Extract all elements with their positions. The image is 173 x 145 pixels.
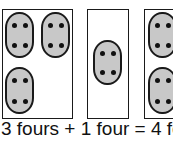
four-dot-oval xyxy=(41,12,70,58)
four-dot-oval xyxy=(93,40,122,85)
four-dot-oval xyxy=(148,67,173,114)
four-dot-oval xyxy=(5,12,34,58)
four-dot-oval xyxy=(5,67,34,114)
equation-caption: 3 fours + 1 four = 4 fours xyxy=(1,118,173,140)
four-dot-oval xyxy=(148,12,173,58)
